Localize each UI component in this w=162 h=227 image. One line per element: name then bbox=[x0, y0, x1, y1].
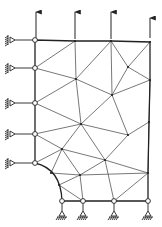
mesh-edge bbox=[51, 149, 62, 173]
mesh-edge bbox=[51, 173, 80, 175]
interior-node bbox=[111, 94, 113, 96]
mesh-edge bbox=[76, 79, 112, 95]
supported-node bbox=[33, 132, 38, 137]
mesh-boundary bbox=[35, 40, 150, 201]
mesh-edge bbox=[80, 173, 148, 175]
interior-node bbox=[127, 66, 129, 68]
mesh-edge bbox=[105, 160, 114, 201]
bottom-pin-support-icon bbox=[108, 201, 119, 220]
mesh-edge bbox=[112, 80, 150, 95]
mesh-edge bbox=[76, 79, 81, 124]
interior-node bbox=[149, 79, 151, 81]
interior-node bbox=[61, 148, 63, 150]
mesh-edge bbox=[75, 41, 76, 79]
interior-node bbox=[127, 134, 129, 136]
mesh-edge bbox=[76, 41, 111, 79]
supported-node bbox=[112, 199, 117, 204]
load-arrows bbox=[36, 12, 150, 39]
mesh-edge bbox=[59, 175, 80, 185]
mesh-edge bbox=[35, 41, 75, 68]
interior-node bbox=[148, 121, 150, 123]
mesh-edge bbox=[128, 122, 149, 135]
interior-node bbox=[79, 174, 81, 176]
outer-boundary bbox=[35, 40, 150, 201]
mesh-edge bbox=[81, 95, 112, 124]
mesh-edge bbox=[128, 67, 150, 80]
supported-node bbox=[146, 199, 151, 204]
mesh-edge bbox=[35, 134, 62, 149]
mesh-edge bbox=[128, 42, 150, 67]
supported-node bbox=[33, 38, 38, 43]
interior-node bbox=[74, 40, 76, 42]
fe-mesh-diagram bbox=[0, 0, 162, 227]
interior-node bbox=[58, 184, 60, 186]
left-roller-support-icon bbox=[5, 98, 35, 109]
bottom-pin-support-icon bbox=[77, 201, 88, 220]
mesh-edge bbox=[112, 67, 128, 95]
supported-node bbox=[33, 161, 38, 166]
mesh-edge bbox=[35, 79, 76, 103]
mesh-edge bbox=[35, 149, 62, 163]
supported-node bbox=[33, 101, 38, 106]
mesh-edge bbox=[114, 173, 148, 201]
mesh-nodes bbox=[33, 38, 151, 204]
bottom-pin-support-icon bbox=[142, 201, 153, 220]
mesh-edge bbox=[105, 135, 128, 160]
mesh-edge bbox=[80, 175, 83, 201]
mesh-edge bbox=[112, 95, 128, 135]
supported-node bbox=[60, 199, 65, 204]
interior-node bbox=[80, 123, 82, 125]
interior-node bbox=[75, 78, 77, 80]
left-roller-support-icon bbox=[5, 129, 35, 140]
bottom-pin-support-icon bbox=[56, 201, 67, 220]
interior-node bbox=[110, 40, 112, 42]
interior-node bbox=[149, 41, 151, 43]
supported-node bbox=[33, 66, 38, 71]
interior-node bbox=[104, 159, 106, 161]
hole-arc bbox=[35, 163, 62, 201]
mesh-edge bbox=[105, 160, 148, 173]
interior-node bbox=[50, 172, 52, 174]
mesh-edge bbox=[111, 41, 128, 67]
mesh-edge bbox=[35, 68, 76, 79]
mesh-edge bbox=[111, 41, 112, 95]
mesh-edges bbox=[35, 41, 150, 201]
mesh-edge bbox=[81, 124, 128, 135]
left-roller-support-icon bbox=[5, 63, 35, 74]
left-roller-support-icon bbox=[5, 158, 35, 169]
interior-node bbox=[147, 172, 149, 174]
supported-node bbox=[81, 199, 86, 204]
mesh-edge bbox=[80, 160, 105, 175]
supports bbox=[5, 35, 153, 220]
left-roller-support-icon bbox=[5, 35, 35, 46]
mesh-edge bbox=[35, 103, 81, 124]
